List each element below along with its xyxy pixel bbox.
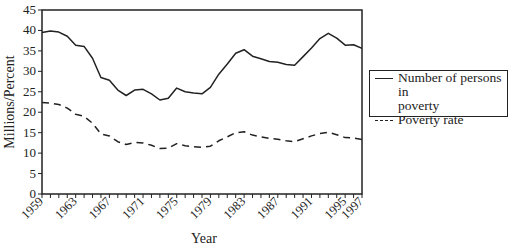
- dashed-line-swatch-icon: [375, 120, 393, 121]
- plot-area: 0510152025303540451959196319671971197519…: [2, 2, 366, 246]
- y-tick-label: 25: [23, 84, 36, 99]
- solid-line-swatch-icon: [375, 78, 393, 79]
- x-axis-label: Year: [191, 231, 217, 246]
- legend: Number of persons in poverty Poverty rat…: [369, 70, 508, 117]
- x-tick-label: 1967: [86, 194, 114, 222]
- series-line-poverty-rate: [42, 102, 362, 148]
- y-tick-label: 5: [30, 166, 37, 181]
- legend-label-persons-1: Number of persons in: [398, 70, 501, 99]
- y-tick-label: 20: [23, 104, 36, 119]
- y-tick-label: 45: [23, 2, 36, 17]
- x-tick-label: 1983: [221, 194, 249, 222]
- x-tick-label: 1979: [187, 194, 215, 222]
- y-tick-label: 30: [23, 63, 36, 78]
- series-line-persons-in-poverty: [42, 31, 362, 100]
- x-tick-label: 1971: [120, 194, 148, 222]
- y-tick-label: 40: [23, 22, 36, 37]
- legend-item-persons: Number of persons in poverty: [370, 71, 507, 113]
- x-tick-label: 1975: [153, 194, 181, 222]
- y-axis-label: Millions/Percent: [2, 55, 17, 148]
- legend-label-persons-2: poverty: [398, 98, 439, 113]
- y-tick-label: 10: [23, 145, 36, 160]
- plot-frame: [42, 10, 362, 194]
- legend-label-rate: Poverty rate: [398, 112, 464, 127]
- x-tick-label: 1987: [254, 194, 282, 222]
- x-tick-label: 1963: [52, 194, 80, 222]
- x-tick-label: 1959: [19, 194, 47, 222]
- y-tick-label: 35: [23, 43, 36, 58]
- legend-item-rate: Poverty rate: [370, 113, 507, 127]
- x-tick-label: 1991: [288, 194, 316, 222]
- y-tick-label: 15: [23, 125, 36, 140]
